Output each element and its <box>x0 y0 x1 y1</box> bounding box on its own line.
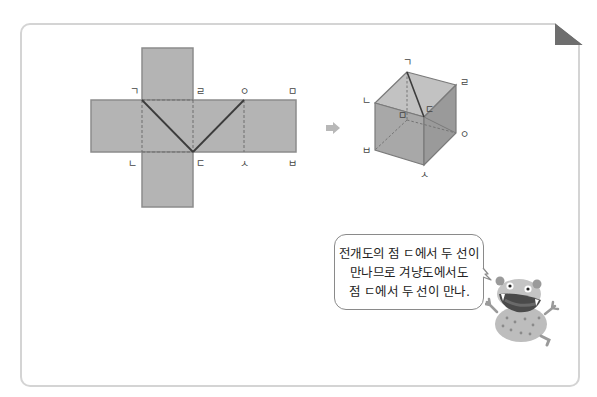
bubble-line-1: 전개도의 점 ㄷ에서 두 선이 <box>339 244 479 263</box>
cube-label-o: ㅇ <box>460 129 469 140</box>
net-label-n: ㄴ <box>128 158 137 169</box>
page-fold-corner-icon <box>555 23 583 45</box>
net-label-b: ㅂ <box>288 158 297 169</box>
cube-label-r: ㄹ <box>460 77 469 88</box>
cube-label-m: ㅁ <box>398 110 407 121</box>
cube-diagram: ㄱ ㄹ ㄴ ㄷ ㅁ ㅇ ㅂ ㅅ <box>340 55 480 185</box>
net-face-top <box>142 48 193 100</box>
net-label-s: ㅅ <box>240 158 249 169</box>
cube-label-n: ㄴ <box>362 95 371 106</box>
bubble-line-2: 만나므로 겨냥도에서도 <box>350 263 468 282</box>
cube-net-diagram: ㄱ ㄹ ㅇ ㅁ ㄴ ㄷ ㅅ ㅂ <box>0 0 320 230</box>
net-face-bottom <box>142 152 193 207</box>
net-label-m: ㅁ <box>288 86 297 97</box>
net-label-o: ㅇ <box>240 86 249 97</box>
cube-label-s: ㅅ <box>420 169 429 180</box>
bubble-line-3: 점 ㄷ에서 두 선이 만나. <box>349 282 470 301</box>
monster-mascot-icon <box>485 272 560 347</box>
net-label-d: ㄷ <box>196 158 205 169</box>
net-label-g: ㄱ <box>130 86 139 97</box>
right-arrow-icon <box>326 122 340 134</box>
speech-bubble: 전개도의 점 ㄷ에서 두 선이 만나므로 겨냥도에서도 점 ㄷ에서 두 선이 만… <box>334 234 484 310</box>
cube-label-b: ㅂ <box>362 145 371 156</box>
cube-label-g: ㄱ <box>403 57 412 68</box>
cube-label-d: ㄷ <box>425 104 434 115</box>
net-label-r: ㄹ <box>196 86 205 97</box>
